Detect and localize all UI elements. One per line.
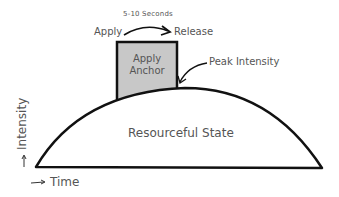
box-label-line2: Anchor: [117, 65, 177, 77]
box-label: Apply Anchor: [117, 53, 177, 77]
apply-release-arrow: [124, 27, 168, 35]
box-label-line1: Apply: [117, 53, 177, 65]
diagram-canvas: [0, 0, 339, 197]
apply-label: Apply: [94, 26, 122, 37]
peak-intensity-label: Peak Intensity: [209, 56, 279, 67]
release-label: Release: [174, 26, 213, 37]
y-axis-label: Intensity: [15, 100, 29, 150]
x-axis-arrow: [31, 182, 44, 183]
resourceful-state-label: Resourceful State: [128, 126, 234, 140]
duration-label: 5-10 Seconds: [123, 10, 173, 18]
peak-arrow: [180, 63, 207, 82]
x-axis-label: Time: [50, 175, 79, 189]
